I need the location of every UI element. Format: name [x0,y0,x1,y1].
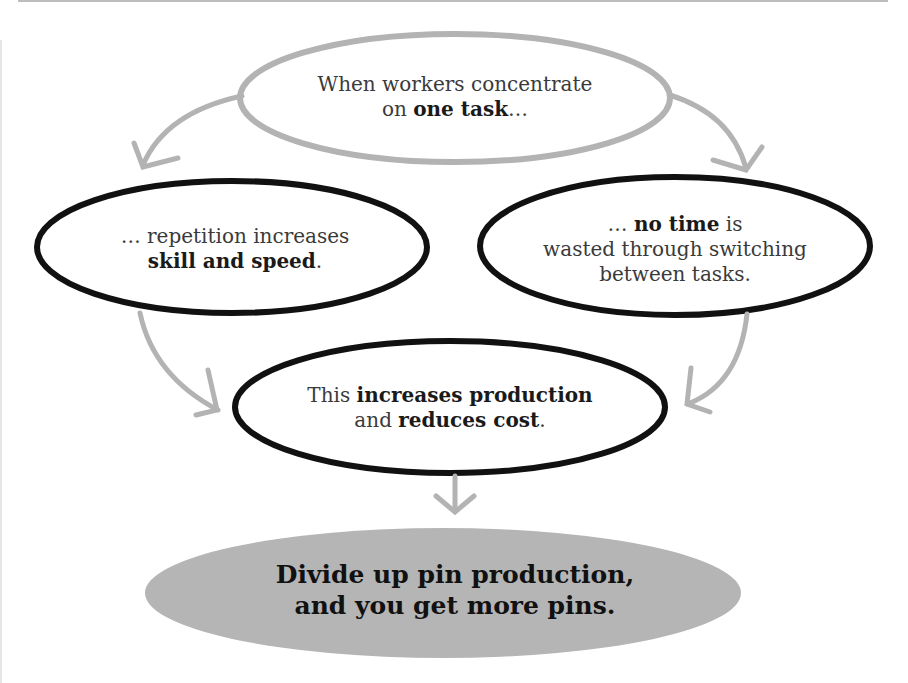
top-node-emphasis: one task [413,97,508,121]
top-node-line2: on one task… [250,97,660,122]
right-node-line2: wasted through switching [490,237,860,262]
left-node-text: … repetition increases skill and speed. [50,224,420,274]
arrow-top-to-left-icon [134,96,242,167]
center-node-emphasis-1: increases production [357,383,593,407]
arrow-top-to-right-icon [670,95,762,170]
top-node-line2-suffix: … [508,97,528,121]
center-node-line2-prefix: and [354,408,398,432]
left-node-emphasis: skill and speed [148,249,316,273]
right-node-emphasis: no time [634,212,720,236]
conclusion-line1: Divide up pin production, [160,560,750,591]
center-node-line1: This increases production [245,383,655,408]
right-node-line1-suffix: is [719,212,742,236]
center-node-line2: and reduces cost. [245,408,655,433]
right-node-line3: between tasks. [490,262,860,287]
conclusion-line2: and you get more pins. [160,591,750,622]
right-node-line1-prefix: … [608,212,634,236]
conclusion-node-text: Divide up pin production, and you get mo… [160,560,750,621]
left-node-line2-suffix: . [316,249,322,273]
arrow-left-to-center-icon [140,313,218,415]
right-node-text: … no time is wasted through switching be… [490,212,860,287]
arrow-right-to-center-icon [687,314,747,412]
center-node-line1-prefix: This [307,383,356,407]
arrow-center-to-conclusion-icon [436,476,474,512]
center-node-text: This increases production and reduces co… [245,383,655,433]
top-node-line2-prefix: on [382,97,413,121]
center-node-line2-suffix: . [539,408,545,432]
top-node-line1: When workers concentrate [250,72,660,97]
top-node-text: When workers concentrate on one task… [250,72,660,122]
left-node-line2: skill and speed. [50,249,420,274]
center-node-emphasis-2: reduces cost [398,408,539,432]
left-node-line1: … repetition increases [50,224,420,249]
right-node-line1: … no time is [490,212,860,237]
